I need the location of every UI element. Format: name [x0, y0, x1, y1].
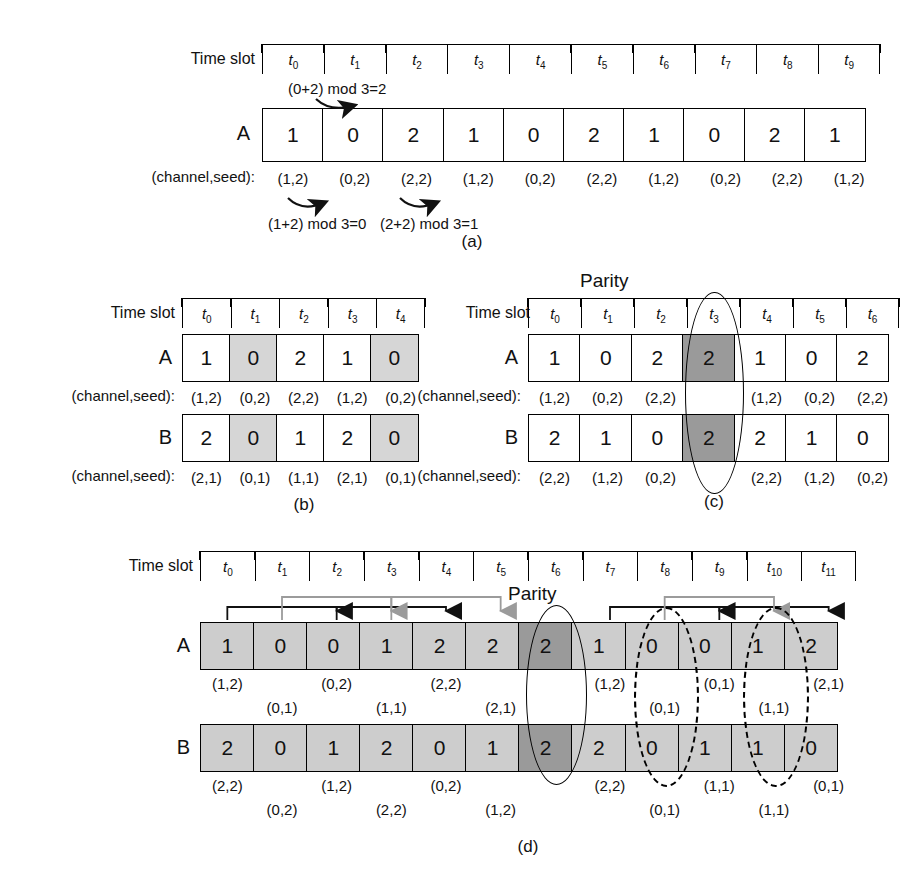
data-cell: 0 [253, 622, 308, 670]
seed-label: (2,2) [846, 387, 899, 407]
seed-label [692, 697, 747, 717]
seed-label: (2,1) [182, 467, 231, 487]
seed-label: (1,2) [200, 673, 255, 693]
time-slot-tick: t7 [583, 551, 638, 581]
panel-d-row-b-seed-upper: (2,2)(1,2)(0,2)(2,2)(1,1)(0,1) [200, 775, 856, 795]
seed-label: (1,1) [364, 697, 419, 717]
seed-label [473, 673, 528, 693]
time-slot-tick: t8 [756, 44, 818, 74]
data-cell: 2 [836, 334, 889, 382]
seed-label: (2,2) [756, 168, 818, 188]
panel-a-seed-label: (channel,seed): [90, 168, 255, 185]
time-slot-tick: t0 [200, 551, 255, 581]
seed-label [687, 467, 740, 487]
seed-label [692, 799, 747, 819]
seed-label [255, 775, 310, 795]
data-cell: 1 [571, 622, 626, 670]
time-slot-label: t10 [767, 559, 782, 578]
panel-d-row-a-label: A [130, 634, 190, 657]
arrow-a-top [316, 99, 352, 108]
seed-label: (1,2) [262, 168, 324, 188]
panel-d-arrow-black-0 [227, 607, 336, 620]
time-slot-tick: t4 [419, 551, 474, 581]
time-slot-label: t11 [821, 559, 836, 578]
seed-label [309, 799, 364, 819]
data-cell: 2 [382, 108, 444, 162]
data-cell: 2 [200, 724, 255, 772]
panel-c-row-b-grid: 2102210 [528, 414, 899, 462]
time-slot-tick: t8 [637, 551, 692, 581]
time-slot-label: t3 [474, 52, 484, 71]
panel-b: Time slot t0t1t2t3t4 A 10210 (channel,se… [0, 290, 460, 540]
time-slot-tick: t1 [324, 44, 386, 74]
seed-label: (1,2) [447, 168, 509, 188]
panel-d-row-a-seed-upper: (1,2)(0,2)(2,2)(1,2)(0,1)(2,1) [200, 673, 856, 693]
data-cell: 2 [182, 414, 231, 462]
seed-label [309, 697, 364, 717]
data-cell: 2 [276, 334, 325, 382]
panel-c-row-b-seed-label: (channel,seed): [356, 467, 521, 484]
arrow-a-bottom-left [288, 198, 323, 207]
time-slot-label: t2 [412, 52, 422, 71]
seed-label: (0,1) [801, 775, 856, 795]
time-slot-tick: t10 [747, 551, 802, 581]
seed-label: (1,2) [581, 467, 634, 487]
data-cell: 1 [731, 724, 786, 772]
data-cell: 1 [623, 108, 685, 162]
seed-label [255, 673, 310, 693]
time-slot-tick: t5 [473, 551, 528, 581]
data-cell: 1 [528, 334, 581, 382]
data-cell: 2 [682, 414, 735, 462]
panel-d-row-b-label: B [130, 736, 190, 759]
seed-label [200, 799, 255, 819]
time-slot-tick: t3 [364, 551, 419, 581]
data-cell: 2 [563, 108, 625, 162]
data-cell: 2 [682, 334, 735, 382]
data-cell: 0 [784, 724, 839, 772]
time-slot-tick: t5 [793, 298, 846, 328]
time-slot-label: t4 [442, 559, 452, 578]
seed-label [583, 697, 638, 717]
panel-a-caption: (a) [442, 232, 502, 252]
data-cell: 2 [631, 334, 684, 382]
time-slot-label: t4 [762, 306, 772, 325]
seed-label: (1,2) [583, 673, 638, 693]
data-cell: 0 [306, 622, 361, 670]
time-slot-tick: t2 [279, 298, 328, 328]
time-slot-tick: t1 [255, 551, 310, 581]
time-slot-label: t0 [202, 306, 212, 325]
seed-label: (0,2) [231, 387, 280, 407]
seed-label [473, 775, 528, 795]
time-slot-label: t3 [348, 306, 358, 325]
panel-d-caption: (d) [498, 837, 558, 857]
data-cell: 1 [276, 414, 325, 462]
panel-c-row-b-seed-row: (2,2)(1,2)(0,2)(2,2)(1,2)(0,2) [528, 467, 899, 487]
seed-label: (1,2) [633, 168, 695, 188]
seed-label: (1,2) [740, 387, 793, 407]
data-cell: 1 [323, 334, 372, 382]
time-slot-label: t2 [299, 306, 309, 325]
time-slot-tick: t0 [182, 298, 231, 328]
seed-label [801, 799, 856, 819]
time-slot-label: t8 [783, 52, 793, 71]
seed-label [528, 697, 583, 717]
time-slot-tick: t1 [581, 298, 634, 328]
data-cell: 0 [579, 334, 632, 382]
time-slot-label: t3 [387, 559, 397, 578]
time-slot-tick: t0 [262, 44, 324, 74]
time-slot-tick: t9 [692, 551, 747, 581]
seed-label: (2,1) [801, 673, 856, 693]
seed-label: (1,1) [747, 697, 802, 717]
seed-label: (2,2) [583, 775, 638, 795]
seed-label [528, 673, 583, 693]
seed-label [364, 775, 419, 795]
data-cell: 1 [731, 622, 786, 670]
panel-a-annotation-top: (0+2) mod 3=2 [288, 80, 386, 97]
seed-label: (2,2) [634, 387, 687, 407]
panel-c-row-b-label: B [458, 426, 518, 449]
data-cell: 0 [625, 724, 680, 772]
time-slot-label: t1 [350, 52, 360, 71]
seed-label: (1,2) [309, 775, 364, 795]
seed-label [801, 697, 856, 717]
time-slot-label: t2 [332, 559, 342, 578]
